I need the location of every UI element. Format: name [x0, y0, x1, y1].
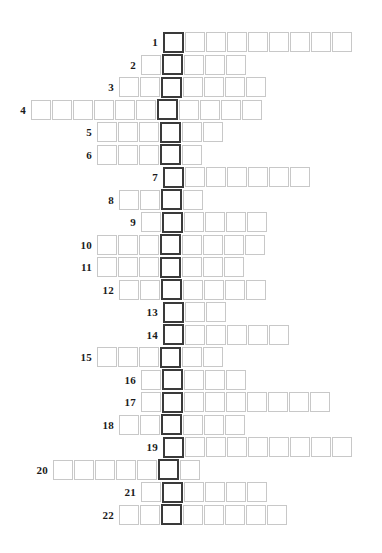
letter-cell[interactable] [311, 437, 331, 457]
letter-cell[interactable] [225, 280, 245, 300]
letter-cell[interactable] [225, 77, 245, 97]
letter-cell[interactable] [248, 325, 268, 345]
letter-cell[interactable] [185, 32, 205, 52]
key-letter-cell[interactable] [162, 392, 183, 413]
letter-cell[interactable] [205, 482, 225, 502]
letter-cell[interactable] [97, 122, 117, 142]
letter-cell[interactable] [206, 302, 226, 322]
letter-cell[interactable] [183, 77, 203, 97]
key-letter-cell[interactable] [162, 369, 183, 390]
letter-cell[interactable] [225, 415, 245, 435]
letter-cell[interactable] [118, 122, 138, 142]
letter-cell[interactable] [73, 100, 93, 120]
letter-cell[interactable] [206, 32, 226, 52]
letter-cell[interactable] [206, 325, 226, 345]
letter-cell[interactable] [97, 145, 117, 165]
letter-cell[interactable] [227, 325, 247, 345]
letter-cell[interactable] [224, 257, 244, 277]
letter-cell[interactable] [31, 100, 51, 120]
letter-cell[interactable] [185, 302, 205, 322]
letter-cell[interactable] [141, 482, 161, 502]
letter-cell[interactable] [206, 437, 226, 457]
key-letter-cell[interactable] [162, 482, 183, 503]
letter-cell[interactable] [290, 437, 310, 457]
letter-cell[interactable] [182, 122, 202, 142]
letter-cell[interactable] [269, 325, 289, 345]
letter-cell[interactable] [95, 460, 115, 480]
letter-cell[interactable] [205, 392, 225, 412]
letter-cell[interactable] [185, 325, 205, 345]
letter-cell[interactable] [97, 347, 117, 367]
letter-cell[interactable] [205, 370, 225, 390]
key-letter-cell[interactable] [162, 54, 183, 75]
letter-cell[interactable] [226, 482, 246, 502]
letter-cell[interactable] [203, 122, 223, 142]
letter-cell[interactable] [269, 437, 289, 457]
key-letter-cell[interactable] [160, 144, 181, 165]
letter-cell[interactable] [248, 167, 268, 187]
letter-cell[interactable] [118, 347, 138, 367]
letter-cell[interactable] [118, 235, 138, 255]
letter-cell[interactable] [269, 167, 289, 187]
letter-cell[interactable] [205, 55, 225, 75]
letter-cell[interactable] [310, 392, 330, 412]
letter-cell[interactable] [290, 167, 310, 187]
letter-cell[interactable] [141, 55, 161, 75]
letter-cell[interactable] [119, 77, 139, 97]
letter-cell[interactable] [226, 212, 246, 232]
letter-cell[interactable] [183, 505, 203, 525]
letter-cell[interactable] [227, 167, 247, 187]
letter-cell[interactable] [203, 235, 223, 255]
letter-cell[interactable] [185, 437, 205, 457]
letter-cell[interactable] [116, 460, 136, 480]
letter-cell[interactable] [140, 77, 160, 97]
letter-cell[interactable] [289, 392, 309, 412]
letter-cell[interactable] [182, 257, 202, 277]
letter-cell[interactable] [141, 212, 161, 232]
letter-cell[interactable] [227, 437, 247, 457]
letter-cell[interactable] [205, 212, 225, 232]
letter-cell[interactable] [247, 392, 267, 412]
letter-cell[interactable] [52, 100, 72, 120]
letter-cell[interactable] [182, 235, 202, 255]
letter-cell[interactable] [246, 280, 266, 300]
letter-cell[interactable] [136, 100, 156, 120]
key-letter-cell[interactable] [157, 99, 178, 120]
letter-cell[interactable] [246, 505, 266, 525]
letter-cell[interactable] [118, 257, 138, 277]
letter-cell[interactable] [184, 392, 204, 412]
letter-cell[interactable] [204, 505, 224, 525]
key-letter-cell[interactable] [161, 77, 182, 98]
letter-cell[interactable] [183, 280, 203, 300]
letter-cell[interactable] [290, 32, 310, 52]
letter-cell[interactable] [204, 415, 224, 435]
key-letter-cell[interactable] [163, 324, 184, 345]
letter-cell[interactable] [204, 77, 224, 97]
key-letter-cell[interactable] [163, 437, 184, 458]
letter-cell[interactable] [206, 167, 226, 187]
letter-cell[interactable] [139, 145, 159, 165]
letter-cell[interactable] [140, 190, 160, 210]
letter-cell[interactable] [53, 460, 73, 480]
letter-cell[interactable] [311, 32, 331, 52]
key-letter-cell[interactable] [163, 32, 184, 53]
letter-cell[interactable] [115, 100, 135, 120]
letter-cell[interactable] [242, 100, 262, 120]
key-letter-cell[interactable] [160, 122, 181, 143]
letter-cell[interactable] [74, 460, 94, 480]
letter-cell[interactable] [182, 145, 202, 165]
key-letter-cell[interactable] [161, 504, 182, 525]
letter-cell[interactable] [141, 392, 161, 412]
key-letter-cell[interactable] [160, 234, 181, 255]
letter-cell[interactable] [183, 415, 203, 435]
letter-cell[interactable] [119, 505, 139, 525]
letter-cell[interactable] [332, 437, 352, 457]
letter-cell[interactable] [97, 257, 117, 277]
letter-cell[interactable] [119, 190, 139, 210]
key-letter-cell[interactable] [161, 189, 182, 210]
letter-cell[interactable] [332, 32, 352, 52]
letter-cell[interactable] [225, 505, 245, 525]
letter-cell[interactable] [94, 100, 114, 120]
letter-cell[interactable] [137, 460, 157, 480]
letter-cell[interactable] [139, 347, 159, 367]
